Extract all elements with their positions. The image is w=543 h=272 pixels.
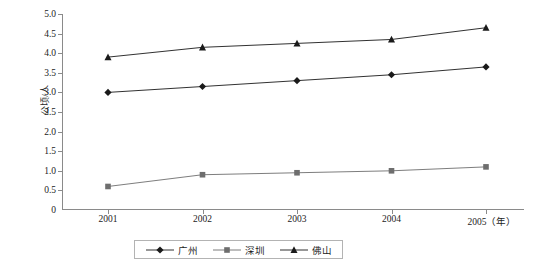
y-axis-tick-label: 3.5 xyxy=(44,68,56,78)
y-axis-tick-labels: 00.51.01.52.02.53.03.54.04.55.0 xyxy=(28,14,56,210)
square-marker-icon xyxy=(200,172,206,178)
square-marker-icon xyxy=(483,164,489,170)
diamond-marker-icon xyxy=(388,71,395,78)
y-axis-tick-label: 4.5 xyxy=(44,29,56,39)
square-marker-icon xyxy=(389,168,395,174)
diamond-marker-icon xyxy=(293,77,300,84)
y-axis-tick-label: 3.0 xyxy=(44,87,56,97)
x-axis-tick-label: 2005（年） xyxy=(467,214,516,228)
series-plot xyxy=(62,14,524,210)
diamond-marker-icon xyxy=(156,246,163,253)
x-axis-tick-label: 2001 xyxy=(99,214,118,224)
y-axis-tick-label: 2.0 xyxy=(44,127,56,137)
diamond-marker-icon xyxy=(199,83,206,90)
data-series xyxy=(105,24,490,60)
diamond-marker-icon xyxy=(104,89,111,96)
x-axis-tick-labels: 20012002200320042005（年） xyxy=(62,214,524,230)
y-axis-tick-label: 5.0 xyxy=(44,9,56,19)
series-line xyxy=(108,167,486,187)
data-series xyxy=(104,63,489,96)
square-marker-icon xyxy=(105,184,111,190)
diamond-marker-icon xyxy=(145,245,175,255)
x-axis-tick-label: 2004 xyxy=(382,214,401,224)
triangle-marker-icon xyxy=(483,24,490,31)
legend-item[interactable]: 佛山 xyxy=(279,243,332,257)
legend-item[interactable]: 广州 xyxy=(145,243,198,257)
line-chart: 公顷/人 00.51.01.52.02.53.03.54.04.55.0 200… xyxy=(0,0,543,272)
x-axis-tick-label: 2003 xyxy=(288,214,307,224)
y-axis-tick-label: 1.5 xyxy=(44,146,56,156)
square-marker-icon xyxy=(224,247,230,253)
y-axis-tick-label: 0.5 xyxy=(44,185,56,195)
data-series xyxy=(105,164,489,189)
x-axis-unit-label: （年） xyxy=(486,217,516,227)
x-axis-tick-label: 2002 xyxy=(193,214,212,224)
y-axis-tick-label: 4.0 xyxy=(44,48,56,58)
y-axis-tick-label: 1.0 xyxy=(44,166,56,176)
plot-area xyxy=(62,14,524,210)
y-axis-tick-label: 0 xyxy=(51,205,56,215)
diamond-marker-icon xyxy=(482,63,489,70)
square-marker-icon xyxy=(294,170,300,176)
square-marker-icon xyxy=(212,245,242,255)
y-axis-tick-label: 2.5 xyxy=(44,107,56,117)
legend-label: 深圳 xyxy=(245,243,265,257)
legend-label: 佛山 xyxy=(312,243,332,257)
legend-item[interactable]: 深圳 xyxy=(212,243,265,257)
chart-legend: 广州深圳佛山 xyxy=(134,240,343,259)
triangle-marker-icon xyxy=(279,245,309,255)
legend-label: 广州 xyxy=(178,243,198,257)
